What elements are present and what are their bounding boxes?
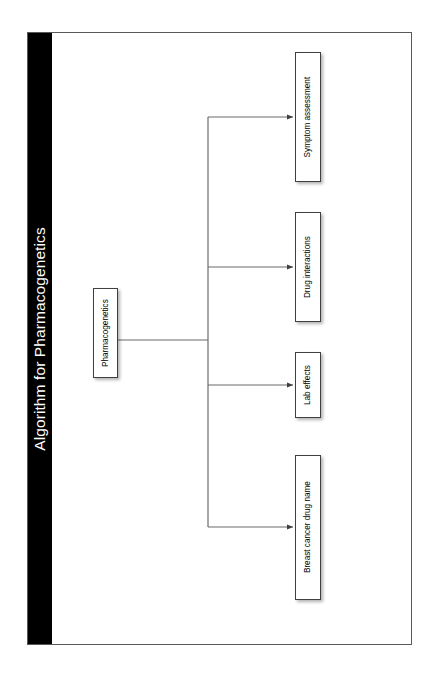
node-breast-cancer-drug-name[interactable]: Breast cancer drug name (295, 455, 321, 600)
node-lab-effects[interactable]: Lab effects (295, 352, 321, 418)
slide-title-bar: Algorithm for Pharmacogenetics (28, 33, 52, 644)
node-drug-interactions[interactable]: Drug interactions (295, 212, 321, 322)
node-child-1-label: Drug interactions (304, 236, 312, 298)
node-root-label: Pharmacogenetics (101, 299, 109, 367)
node-child-0-label: Symptom assessment (304, 77, 312, 158)
node-child-2-label: Lab effects (304, 365, 312, 405)
node-child-3-label: Breast cancer drug name (304, 482, 312, 574)
node-symptom-assessment[interactable]: Symptom assessment (295, 52, 321, 182)
pharmacogenetics-algorithm-diagram: Pharmacogenetics Symptom assessment Drug… (52, 33, 412, 644)
node-root-pharmacogenetics[interactable]: Pharmacogenetics (93, 288, 118, 378)
page-title: Algorithm for Pharmacogenetics (32, 227, 48, 451)
